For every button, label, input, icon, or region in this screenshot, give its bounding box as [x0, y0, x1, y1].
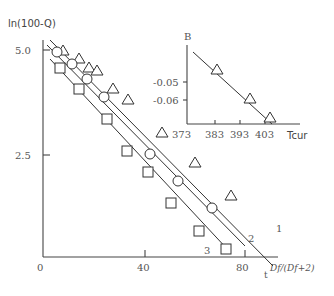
fit-line-2: [47, 45, 245, 246]
circle-marker: [207, 203, 217, 213]
svg-text:Df/(Df+2): Df/(Df+2): [269, 263, 315, 273]
inset-y-label: B: [184, 31, 191, 42]
circle-marker: [145, 149, 155, 159]
y-tick-label-5: 5.0: [15, 45, 31, 56]
x-tick-label-0: 0: [37, 262, 43, 273]
triangle-marker: [211, 64, 223, 74]
circle-marker: [82, 74, 92, 84]
line-label-1: 1: [276, 223, 282, 234]
circle-marker: [52, 47, 62, 57]
triangle-marker: [107, 83, 119, 93]
inset-x-tick-label: 373: [172, 129, 191, 140]
svg-text:t: t: [264, 270, 268, 280]
inset-x-tick-label: 383: [205, 129, 224, 140]
square-marker: [221, 244, 231, 254]
triangle-marker: [225, 190, 237, 200]
inset-y-tick-label: -0.06: [153, 95, 179, 106]
inset-x-label: Tcur: [286, 130, 308, 141]
line-label-2: 2: [248, 233, 254, 244]
inset-fit-line: [193, 52, 272, 124]
square-marker: [166, 198, 176, 208]
inset-chart: B -0.05 -0.06 373 383 393 403 Tcur: [153, 31, 308, 141]
x-axis-label: t Df/(Df+2): [264, 263, 315, 280]
inset-y-tick-label: -0.05: [153, 77, 179, 88]
line-label-3: 3: [204, 245, 210, 256]
triangle-marker: [244, 93, 256, 103]
y-axis-label: ln(100-Q): [8, 18, 56, 29]
inset-x-tick-label: 403: [255, 129, 274, 140]
triangle-marker: [156, 127, 168, 137]
series-2-markers: [52, 47, 217, 213]
fit-line-1: [50, 40, 273, 266]
main-axes: [43, 40, 278, 257]
circle-marker: [99, 92, 109, 102]
circle-marker: [173, 176, 183, 186]
square-marker: [194, 226, 204, 236]
circle-marker: [67, 59, 77, 69]
x-tick-label-40: 40: [137, 262, 150, 273]
square-marker: [122, 146, 132, 156]
triangle-marker: [189, 157, 201, 167]
x-tick-label-80: 80: [236, 262, 249, 273]
square-marker: [55, 63, 65, 73]
triangle-marker: [264, 112, 276, 122]
inset-x-tick-label: 393: [230, 129, 249, 140]
triangle-marker: [122, 94, 134, 104]
chart: ln(100-Q) 5.0 2.5 0 40 80 t Df/(Df+2) 1 …: [0, 0, 334, 296]
square-marker: [74, 84, 84, 94]
square-marker: [143, 167, 153, 177]
y-tick-label-2.5: 2.5: [15, 150, 31, 161]
square-marker: [102, 114, 112, 124]
